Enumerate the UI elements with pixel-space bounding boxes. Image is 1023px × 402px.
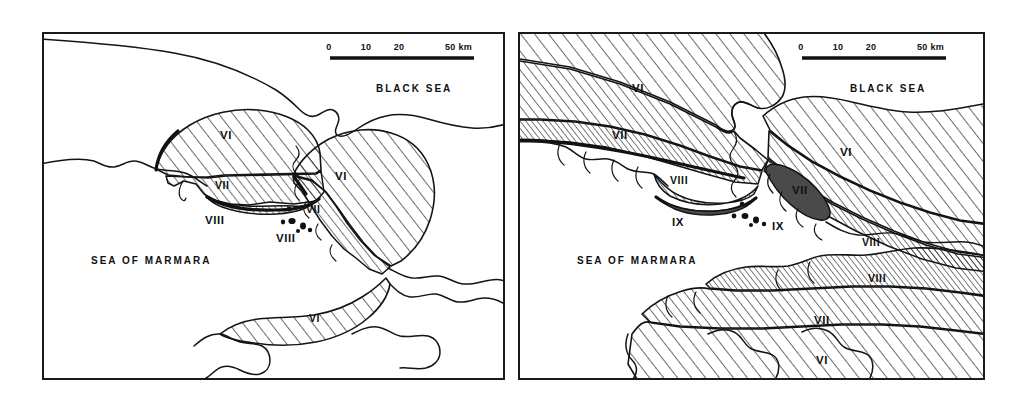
zone-label-vi-south: VI	[816, 354, 828, 366]
zone-vi-west	[156, 110, 321, 177]
zone-label-viii-nw: VIII	[670, 174, 688, 186]
scale-end-label: 50 km	[917, 42, 944, 52]
zone-label-vi-nw: VI	[632, 82, 644, 94]
southern-peninsula-zone-vi	[220, 278, 390, 345]
southern-bay-coast	[390, 284, 503, 306]
scale-tick-0: 0	[798, 42, 803, 52]
zone-label-vi-east: VI	[335, 170, 347, 182]
right-map-panel: 0 10 20 50 km BLACK SEA SEA OF MARMARA V…	[518, 32, 985, 380]
zone-label-ix-istanbul: IX	[672, 216, 684, 228]
scale-bar-group-right: 0 10 20 50 km	[798, 42, 946, 58]
scale-tick-10: 10	[833, 42, 844, 52]
zone-label-vi-peninsula: VI	[309, 312, 320, 324]
island-dot	[753, 217, 759, 224]
island-dot	[287, 206, 292, 211]
south-east-inner-coast	[352, 327, 440, 369]
marmara-coast-east	[388, 268, 503, 284]
zone-label-viii-islands: VIII	[276, 232, 296, 244]
zone-label-viii-ne: VIII	[862, 236, 880, 248]
zone-label-vi-ne: VI	[840, 146, 852, 158]
isoseismal-map-figure: 0 10 20 50 km BLACK SEA SEA OF MARMARA V…	[0, 0, 1023, 402]
island-dot	[732, 214, 737, 219]
island-dot	[308, 228, 312, 232]
zone-label-vii-east: VII	[306, 203, 321, 215]
zone-label-vii-west: VII	[215, 179, 230, 191]
zone-label-vii-ne: VII	[792, 184, 808, 196]
scale-tick-20: 20	[866, 42, 877, 52]
sea-of-marmara-label: SEA OF MARMARA	[577, 255, 697, 266]
zone-label-viii-south: VIII	[868, 272, 886, 284]
island-dot	[296, 229, 300, 233]
scale-tick-10: 10	[361, 42, 372, 52]
zone-label-viii-west: VIII	[205, 214, 225, 226]
scale-tick-20: 20	[394, 42, 405, 52]
black-sea-label: BLACK SEA	[850, 83, 926, 94]
zone-label-vi-west: VI	[220, 129, 232, 141]
black-sea-label: BLACK SEA	[376, 83, 452, 94]
right-map-svg: 0 10 20 50 km BLACK SEA SEA OF MARMARA V…	[520, 34, 983, 378]
island-dot	[762, 222, 766, 226]
island-dot	[749, 223, 753, 227]
scale-tick-0: 0	[326, 42, 331, 52]
left-map-panel: 0 10 20 50 km BLACK SEA SEA OF MARMARA V…	[42, 32, 505, 380]
island-dot	[740, 202, 744, 207]
zone-label-ix-izmit: IX	[772, 220, 784, 232]
scale-bar-group: 0 10 20 50 km	[326, 42, 474, 58]
zone-vii-west-bay-notch	[179, 181, 186, 201]
scale-end-label: 50 km	[445, 42, 472, 52]
island-dot	[742, 213, 749, 219]
zone-label-vii-south: VII	[814, 314, 830, 326]
sea-of-marmara-label: SEA OF MARMARA	[91, 255, 211, 266]
left-map-svg: 0 10 20 50 km BLACK SEA SEA OF MARMARA V…	[44, 34, 503, 378]
island-dot	[300, 223, 306, 230]
zone-label-vii-nw: VII	[612, 129, 628, 141]
island-dot	[288, 218, 295, 224]
island-dot	[281, 220, 285, 225]
